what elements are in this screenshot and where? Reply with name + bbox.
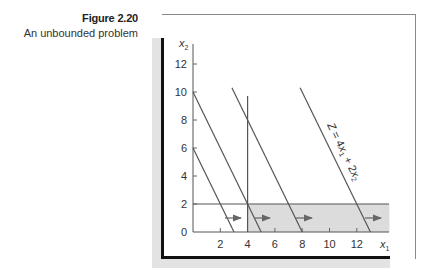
constraint-line-10 — [193, 92, 261, 232]
y-ticks — [193, 64, 197, 204]
y-tick-label: 4 — [181, 170, 187, 182]
y-tick-label: 12 — [175, 58, 187, 70]
chart-svg: 0 2 4 6 8 10 12 2 4 6 8 10 12 x2 x1 Z = … — [0, 0, 437, 268]
x-tick-label: 6 — [272, 238, 278, 250]
objective-annotation: Z = 4x1 + 2x2 — [324, 120, 364, 183]
y-tick-label: 0 — [181, 226, 187, 238]
x-tick-label: 8 — [299, 238, 305, 250]
y-axis-label: x2 — [178, 37, 189, 51]
constraint-line-6 — [193, 148, 234, 232]
y-tick-label: 2 — [181, 198, 187, 210]
x-tick-label: 2 — [217, 238, 223, 250]
y-tick-label: 8 — [181, 114, 187, 126]
x-tick-label: 10 — [323, 238, 335, 250]
x-axis-label: x1 — [379, 238, 390, 252]
x-tick-label: 12 — [351, 238, 363, 250]
y-tick-label: 6 — [181, 142, 187, 154]
y-tick-label: 10 — [175, 86, 187, 98]
x-tick-label: 4 — [245, 238, 251, 250]
